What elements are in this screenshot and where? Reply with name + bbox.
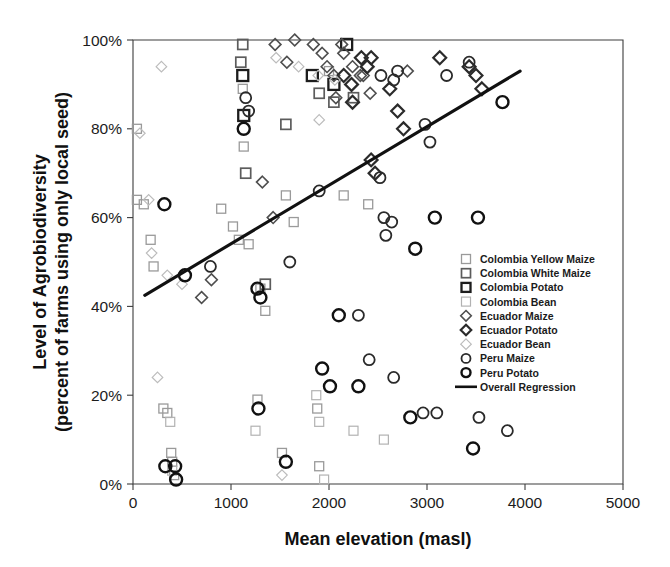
data-point — [244, 240, 253, 249]
legend-item-ecuador-potato[interactable]: Ecuador Potato — [461, 324, 558, 336]
data-point — [391, 105, 404, 118]
x-axis-ticks — [133, 484, 623, 490]
data-point — [217, 204, 226, 213]
legend-item-colombia-potato[interactable]: Colombia Potato — [462, 281, 564, 293]
data-point — [293, 61, 304, 72]
data-point — [156, 61, 167, 72]
data-point — [333, 309, 345, 321]
data-point — [152, 372, 163, 383]
legend-item-colombia-bean[interactable]: Colombia Bean — [462, 296, 557, 308]
data-point — [431, 407, 442, 418]
data-point — [424, 137, 435, 148]
x-tick-label: 4000 — [508, 494, 543, 511]
x-axis-tick-labels: 010002000300040005000 — [129, 494, 641, 511]
axis-titles: Mean elevation (masl)Level of Agrobiodiv… — [30, 92, 472, 549]
data-point — [314, 115, 325, 126]
data-point — [277, 470, 288, 481]
data-point — [315, 417, 324, 426]
data-point — [205, 261, 216, 272]
data-point — [146, 248, 157, 259]
y-axis-ticks — [127, 40, 133, 484]
y-axis-tick-labels: 0%20%40%60%80%100% — [82, 32, 122, 493]
data-point — [236, 57, 246, 67]
series-colombia-bean — [166, 391, 389, 484]
data-point — [284, 257, 295, 268]
data-point — [352, 380, 364, 392]
legend-label: Colombia White Maize — [480, 267, 591, 279]
data-point — [364, 87, 376, 99]
legend-item-peru-potato[interactable]: Peru Potato — [462, 367, 539, 379]
legend-label: Colombia Potato — [480, 281, 563, 293]
y-tick-label: 0% — [100, 476, 123, 493]
legend-marker-circle-icon — [462, 368, 471, 377]
data-point — [380, 230, 391, 241]
data-point — [312, 391, 321, 400]
data-point — [237, 70, 248, 81]
y-axis-title-line1: Level of Agrobiodiversity — [30, 154, 50, 369]
data-point — [316, 363, 328, 375]
legend-label: Peru Maize — [480, 352, 535, 364]
legend-item-peru-maize[interactable]: Peru Maize — [462, 352, 536, 364]
data-point — [388, 372, 399, 383]
data-point — [241, 168, 251, 178]
data-point — [379, 435, 388, 444]
chart-figure: 010002000300040005000 0%20%40%60%80%100%… — [0, 0, 670, 567]
legend-marker-square-icon — [462, 269, 471, 278]
legend-marker-diamond-icon — [461, 339, 472, 350]
y-tick-label: 100% — [82, 32, 122, 49]
data-point — [158, 198, 170, 210]
data-point — [464, 57, 475, 68]
x-tick-label: 0 — [129, 494, 138, 511]
y-tick-label: 40% — [91, 298, 122, 315]
series-peru-potato — [158, 96, 508, 485]
data-point — [149, 262, 158, 271]
y-tick-label: 80% — [91, 120, 122, 137]
data-point — [375, 70, 386, 81]
data-point — [239, 142, 248, 151]
data-point — [315, 462, 324, 471]
data-point — [467, 442, 479, 454]
y-tick-label: 20% — [91, 387, 122, 404]
agrobiodiversity-scatter-plot: 010002000300040005000 0%20%40%60%80%100%… — [0, 0, 670, 567]
legend-item-ecuador-bean[interactable]: Ecuador Bean — [461, 338, 551, 350]
data-point — [429, 212, 441, 224]
data-point — [433, 51, 446, 64]
data-point — [349, 426, 358, 435]
data-point — [238, 123, 250, 135]
legend-item-colombia-yellow-maize[interactable]: Colombia Yellow Maize — [462, 253, 595, 265]
data-point — [251, 426, 260, 435]
scatter-data-points — [132, 34, 512, 485]
legend-marker-square-icon — [462, 283, 471, 292]
legend-label: Ecuador Bean — [480, 338, 551, 350]
legend-item-ecuador-maize[interactable]: Ecuador Maize — [461, 310, 554, 322]
data-point — [409, 243, 421, 255]
data-point — [347, 61, 359, 73]
x-axis-title: Mean elevation (masl) — [284, 529, 471, 549]
x-tick-label: 2000 — [312, 494, 347, 511]
legend-marker-diamond-icon — [461, 311, 472, 322]
data-point — [238, 39, 248, 49]
y-tick-label: 60% — [91, 209, 122, 226]
data-point — [364, 354, 375, 365]
data-point — [502, 425, 513, 436]
data-point — [261, 306, 270, 315]
overall-regression-line — [145, 71, 520, 295]
legend-label: Ecuador Potato — [480, 324, 558, 336]
legend-label: Peru Potato — [480, 367, 539, 379]
legend-label: Ecuador Maize — [480, 310, 554, 322]
legend-marker-diamond-icon — [461, 325, 472, 336]
legend-item-colombia-white-maize[interactable]: Colombia White Maize — [462, 267, 592, 279]
legend-marker-square-icon — [462, 297, 471, 306]
data-point — [206, 274, 218, 286]
data-point — [281, 56, 293, 68]
x-tick-label: 5000 — [606, 494, 641, 511]
legend-label: Colombia Bean — [480, 296, 556, 308]
data-point — [316, 47, 328, 59]
series-ecuador-maize — [196, 34, 414, 303]
data-point — [289, 218, 298, 227]
y-axis-title-line2: (percent of farms using only local seed) — [52, 92, 72, 432]
data-point — [257, 176, 269, 188]
legend-item-overall-regression[interactable]: Overall Regression — [455, 381, 576, 393]
data-point — [166, 417, 175, 426]
data-point — [324, 380, 336, 392]
